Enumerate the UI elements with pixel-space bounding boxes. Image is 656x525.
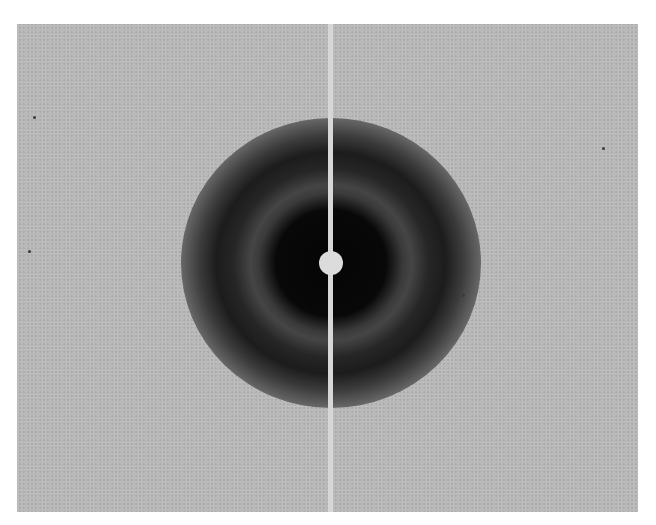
dust-speck [462, 294, 465, 297]
beam-stop-disk [319, 251, 343, 275]
dust-speck [602, 147, 605, 150]
dust-speck [33, 116, 36, 119]
diffraction-plate [17, 24, 638, 512]
dust-speck [28, 250, 31, 253]
